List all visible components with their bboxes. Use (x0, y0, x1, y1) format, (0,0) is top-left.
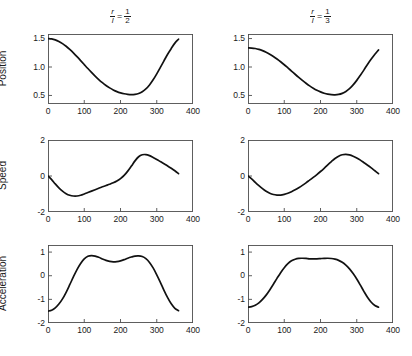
equals-sign: = (115, 12, 124, 21)
y-tick-label-acceleration-left-1: -1 (22, 295, 45, 304)
panel-speed-left (48, 140, 193, 212)
y-tick-label-acceleration-left-3: 1 (22, 248, 45, 257)
y-tick-label-speed-right-1: 0 (222, 172, 245, 181)
x-tick-label-acceleration-right-1: 100 (269, 326, 299, 335)
ratio-fraction-rl: rl (310, 8, 315, 26)
y-tick-label-acceleration-right-3: 1 (222, 248, 245, 257)
x-tick-label-acceleration-right-4: 400 (378, 326, 408, 335)
panel-position-right (248, 34, 393, 104)
x-tick-label-speed-right-3: 300 (342, 215, 372, 224)
plot-area-speed-right (248, 140, 393, 212)
x-tick-label-acceleration-left-0: 0 (33, 326, 63, 335)
plot-area-speed-left (48, 140, 193, 212)
ratio-numerator: r (310, 8, 315, 16)
ratio-value-denominator: 3 (324, 16, 330, 25)
x-tick-label-acceleration-right-2: 200 (306, 326, 336, 335)
data-curve-acceleration-right (248, 258, 379, 307)
y-axis-label-position: Position (0, 29, 8, 109)
ratio-fraction-rl: rl (110, 8, 115, 26)
data-curve-position-right (248, 48, 379, 95)
ratio-value-numerator: 1 (324, 8, 330, 16)
x-tick-label-position-right-2: 200 (306, 107, 336, 116)
column-title-right: rl=13 (295, 8, 347, 26)
plot-area-position-right (248, 34, 393, 104)
x-tick-label-speed-right-2: 200 (306, 215, 336, 224)
ratio-value-numerator: 1 (124, 8, 130, 16)
y-tick-label-position-right-2: 1.5 (222, 34, 245, 43)
x-tick-label-position-right-3: 300 (342, 107, 372, 116)
plot-area-acceleration-right (248, 245, 393, 323)
x-tick-label-speed-right-4: 400 (378, 215, 408, 224)
y-axis-label-acceleration: Acceleration (0, 244, 8, 324)
x-tick-label-speed-left-0: 0 (33, 215, 63, 224)
y-tick-label-position-left-0: 0.5 (22, 91, 45, 100)
x-tick-label-acceleration-left-1: 100 (69, 326, 99, 335)
x-tick-label-speed-right-0: 0 (233, 215, 263, 224)
y-tick-label-acceleration-right-2: 0 (222, 271, 245, 280)
x-tick-label-speed-right-1: 100 (269, 215, 299, 224)
x-tick-label-speed-left-4: 400 (178, 215, 208, 224)
panel-position-left (48, 34, 193, 104)
y-tick-label-position-left-1: 1.0 (22, 63, 45, 72)
ratio-denominator: l (110, 16, 115, 25)
x-tick-label-acceleration-right-0: 0 (233, 326, 263, 335)
ratio-value-denominator: 2 (124, 16, 130, 25)
x-tick-label-position-left-4: 400 (178, 107, 208, 116)
x-tick-label-position-left-1: 100 (69, 107, 99, 116)
plot-area-position-left (48, 34, 193, 104)
y-tick-label-position-left-2: 1.5 (22, 34, 45, 43)
plot-area-acceleration-left (48, 245, 193, 323)
x-tick-label-acceleration-left-4: 400 (178, 326, 208, 335)
y-tick-label-speed-left-1: 0 (22, 172, 45, 181)
x-tick-label-speed-left-2: 200 (106, 215, 136, 224)
data-curve-acceleration-left (48, 256, 179, 312)
x-tick-label-acceleration-right-3: 300 (342, 326, 372, 335)
plot-frame (248, 34, 392, 103)
multi-panel-figure: rl=12rl=130.51.01.50100200300400-2020100… (0, 0, 412, 356)
ratio-value-fraction: 12 (124, 8, 130, 26)
ratio-numerator: r (110, 8, 115, 16)
x-tick-label-position-left-0: 0 (33, 107, 63, 116)
y-tick-label-speed-right-2: 2 (222, 136, 245, 145)
x-tick-label-acceleration-left-3: 300 (142, 326, 172, 335)
x-tick-label-speed-left-1: 100 (69, 215, 99, 224)
x-tick-label-position-right-1: 100 (269, 107, 299, 116)
y-tick-label-position-right-1: 1.0 (222, 63, 245, 72)
column-title-left: rl=12 (95, 8, 147, 26)
plot-frame (48, 140, 192, 211)
equals-sign: = (315, 12, 324, 21)
x-tick-label-position-right-0: 0 (233, 107, 263, 116)
x-tick-label-acceleration-left-2: 200 (106, 326, 136, 335)
y-tick-label-acceleration-left-2: 0 (22, 271, 45, 280)
data-curve-speed-left (48, 154, 179, 196)
panel-acceleration-right (248, 245, 393, 323)
data-curve-speed-right (248, 154, 379, 195)
panel-acceleration-left (48, 245, 193, 323)
data-curve-position-left (48, 39, 179, 95)
y-tick-label-speed-left-2: 2 (22, 136, 45, 145)
ratio-value-fraction: 13 (324, 8, 330, 26)
x-tick-label-position-left-2: 200 (106, 107, 136, 116)
x-tick-label-position-right-4: 400 (378, 107, 408, 116)
ratio-denominator: l (310, 16, 315, 25)
y-tick-label-acceleration-right-1: -1 (222, 295, 245, 304)
plot-frame (248, 140, 392, 211)
x-tick-label-position-left-3: 300 (142, 107, 172, 116)
y-tick-label-position-right-0: 0.5 (222, 91, 245, 100)
x-tick-label-speed-left-3: 300 (142, 215, 172, 224)
plot-frame (248, 245, 392, 322)
y-axis-label-speed: Speed (0, 136, 8, 216)
panel-speed-right (248, 140, 393, 212)
